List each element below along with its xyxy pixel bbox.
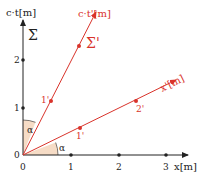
frame-sigma-label: Σ	[28, 27, 38, 43]
ct-prime-axis-label: c·t'[m]	[78, 8, 111, 19]
x-axis-label: x[m]	[174, 161, 197, 172]
x-tick-label-1: 1	[68, 162, 74, 172]
ct-prime-tick-1	[49, 99, 53, 103]
minkowski-diagram: 0 0 1 2 3 1 2 x[m] c·t[m] Σ α α c·t'[m] …	[0, 0, 204, 182]
x-prime-tick-label-1: 1'	[76, 131, 84, 141]
origin-label-x: 0	[20, 162, 26, 172]
x-prime-tick-1	[78, 126, 82, 130]
x-prime-axis-label: x'[m]	[158, 73, 186, 94]
x-tick-label-2: 2	[116, 162, 122, 172]
x-tick-1	[69, 153, 73, 157]
x-prime-tick-label-2: 2'	[136, 104, 144, 114]
x-tick-label-3: 3	[163, 162, 169, 172]
ct-prime-tick-label-1: 1'	[41, 95, 49, 105]
x-prime-axis	[23, 80, 176, 155]
origin-label-y: 0	[14, 150, 20, 160]
angle-label-x: α	[59, 143, 65, 153]
ct-axis-label: c·t[m]	[6, 7, 36, 18]
diagram-svg: 0 0 1 2 3 1 2 x[m] c·t[m] Σ α α c·t'[m] …	[0, 0, 204, 182]
angle-label-ct: α	[27, 125, 33, 135]
ct-tick-1	[21, 106, 25, 110]
ct-tick-2	[21, 58, 25, 62]
ct-tick-label-2: 2	[14, 55, 20, 65]
ct-tick-label-1: 1	[14, 103, 20, 113]
x-tick-2	[117, 153, 121, 157]
frame-sigma-prime-label: Σ'	[86, 35, 100, 51]
ct-prime-tick-2	[77, 44, 81, 48]
x-prime-tick-2	[134, 99, 138, 103]
x-tick-3	[164, 153, 168, 157]
